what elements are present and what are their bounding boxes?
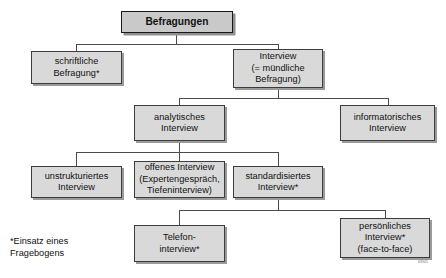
node-analytisches-interview-label: analytisches Interview xyxy=(135,112,224,135)
node-schriftliche-befragung[interactable]: schriftliche Befragung* xyxy=(31,51,122,84)
node-offenes-interview-label: offenes Interview (Expertengespräch, Tie… xyxy=(135,162,224,196)
connector-analytisches-stem xyxy=(179,141,180,152)
connector-to-unstrukturiertes xyxy=(76,152,77,166)
node-standardisiertes-interview-label: standardisiertes Interview* xyxy=(234,171,322,194)
plate-code: 63905 xyxy=(418,260,428,264)
connector-level3-bus xyxy=(76,152,279,153)
node-telefoninterview[interactable]: Telefon- interview* xyxy=(134,225,225,262)
connector-level1-bus xyxy=(76,44,279,45)
node-interview-label: Interview (= mündliche Befragung) xyxy=(234,51,322,85)
connector-to-standardisiertes xyxy=(278,152,279,166)
node-interview[interactable]: Interview (= mündliche Befragung) xyxy=(233,49,323,88)
node-standardisiertes-interview[interactable]: standardisiertes Interview* xyxy=(233,166,323,198)
node-schriftliche-befragung-label: schriftliche Befragung* xyxy=(32,56,121,79)
node-persoenliches-interview[interactable]: persönliches Interview* (face-to-face) xyxy=(340,218,430,258)
node-informatorisches-interview[interactable]: informatorisches Interview xyxy=(340,105,435,141)
footnote-fragebogen: *Einsatz eines Fragebogens xyxy=(10,236,68,259)
connector-level2-bus xyxy=(179,98,388,99)
node-informatorisches-interview-label: informatorisches Interview xyxy=(341,112,434,135)
connector-root-stem xyxy=(176,33,177,44)
node-offenes-interview[interactable]: offenes Interview (Expertengespräch, Tie… xyxy=(134,161,225,198)
connector-interview-stem xyxy=(278,88,279,98)
node-persoenliches-interview-label: persönliches Interview* (face-to-face) xyxy=(341,221,429,255)
node-telefoninterview-label: Telefon- interview* xyxy=(135,232,224,255)
node-befragungen-label: Befragungen xyxy=(122,16,232,27)
node-unstrukturiertes-interview[interactable]: unstrukturiertes Interview xyxy=(31,166,122,198)
connector-to-telefon xyxy=(179,210,180,225)
node-analytisches-interview[interactable]: analytisches Interview xyxy=(134,105,225,141)
connector-to-persoenliches xyxy=(385,210,386,218)
connector-level4-bus xyxy=(179,210,385,211)
diagram-canvas: Befragungen schriftliche Befragung* Inte… xyxy=(0,0,446,278)
node-befragungen[interactable]: Befragungen xyxy=(121,11,233,33)
connector-standardisiertes-stem xyxy=(278,198,279,210)
node-unstrukturiertes-interview-label: unstrukturiertes Interview xyxy=(32,171,121,194)
